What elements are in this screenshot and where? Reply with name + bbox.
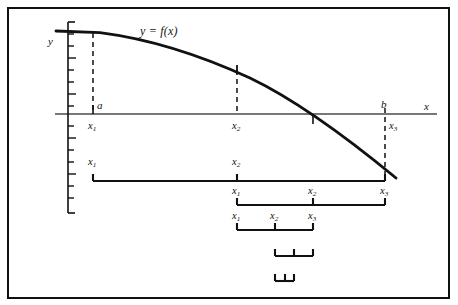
bracket-2-label-x3: x3 xyxy=(380,186,388,198)
bracket-4 xyxy=(275,249,313,256)
figure-root: y x y = f(x) a b x1 x2 x3 x1 x2 x1 x2 x3… xyxy=(0,0,458,305)
bracket-3 xyxy=(237,223,313,230)
bracket-2-label-x2: x2 xyxy=(308,186,316,198)
diagram-canvas xyxy=(0,0,458,305)
curve-label: y = f(x) xyxy=(140,25,178,37)
axis-label-x3: x3 xyxy=(389,121,397,133)
bracket-1 xyxy=(93,174,385,181)
bracket-3-label-x2: x2 xyxy=(270,211,278,223)
axis-label-x2: x2 xyxy=(232,121,240,133)
y-axis-ticks xyxy=(68,34,76,198)
interval-right-endpoint-label: b xyxy=(381,99,387,110)
y-axis-label: y xyxy=(48,36,53,47)
bracket-3-label-x1: x1 xyxy=(232,211,240,223)
bracket-2-label-x1: x1 xyxy=(232,186,240,198)
axis-label-x1: x1 xyxy=(88,121,96,133)
bracket-3-label-x3: x3 xyxy=(308,211,316,223)
x-axis-label: x xyxy=(424,101,429,112)
bracket-5 xyxy=(275,274,294,281)
function-curve xyxy=(56,31,396,178)
bracket-2 xyxy=(237,198,385,205)
interval-left-endpoint-label: a xyxy=(97,100,103,111)
bracket-1-label-x2: x2 xyxy=(232,157,240,169)
bracket-1-label-x1: x1 xyxy=(88,157,96,169)
